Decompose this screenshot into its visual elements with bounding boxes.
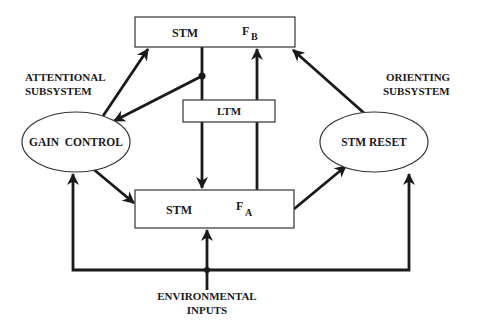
fb-subscript: B — [251, 31, 258, 42]
stm-reset-label: STM RESET — [341, 136, 407, 148]
fb-f-label: F — [242, 24, 249, 38]
fb-node: STM F B — [135, 17, 295, 47]
orienting-line-1: ORIENTING — [386, 71, 451, 83]
input-junction-dot — [204, 267, 210, 273]
attentional-annotation: ATTENTIONAL SUBSYSTEM — [25, 71, 105, 97]
fa-subscript: A — [245, 207, 253, 218]
edge-fa-to-reset — [294, 166, 346, 209]
inputs-line-1: ENVIRONMENTAL — [157, 290, 256, 302]
edge-reset-to-fb — [293, 50, 364, 113]
gain-control-label: GAIN CONTROL — [29, 136, 123, 148]
fa-node: STM F A — [135, 190, 294, 228]
stm-reset-node: STM RESET — [320, 112, 428, 172]
fa-f-label: F — [236, 199, 243, 213]
fa-stm-label: STM — [166, 203, 192, 217]
attentional-line-1: ATTENTIONAL — [25, 71, 105, 83]
gain-control-node: GAIN CONTROL — [22, 112, 130, 172]
ltm-label: LTM — [217, 105, 242, 117]
ltm-node: LTM — [183, 100, 275, 122]
inputs-line-2: INPUTS — [187, 304, 227, 316]
fb-stm-label: STM — [172, 26, 198, 40]
attentional-line-2: SUBSYSTEM — [25, 85, 92, 97]
orienting-annotation: ORIENTING SUBSYSTEM — [383, 71, 451, 97]
inputs-annotation: ENVIRONMENTAL INPUTS — [157, 290, 256, 316]
art-diagram: STM F B LTM STM F A GAIN CONTROL STM RES… — [0, 0, 484, 329]
edge-gain-to-fa — [92, 168, 134, 203]
orienting-line-2: SUBSYSTEM — [383, 85, 450, 97]
